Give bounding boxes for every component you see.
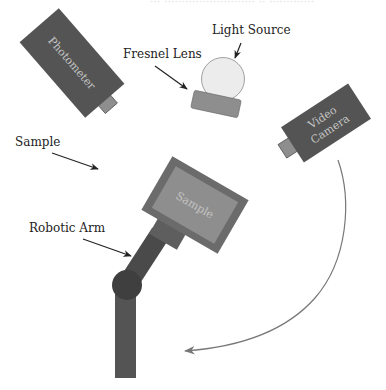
sample-label: Sample [15,135,60,149]
video-camera: Video Camera [271,84,371,169]
sample-arrow [52,153,98,169]
robotic-arm-label: Robotic Arm [29,221,106,235]
light-source-assembly [191,58,245,118]
light-source-arrow [235,43,241,58]
experimental-setup-diagram: ··· ·························· ·· ······… [0,0,386,390]
arm-joint [112,270,142,300]
fresnel-lens-label: Fresnel Lens [123,47,202,61]
robotic-arm [112,215,188,378]
fresnel-lens-arrow [155,66,187,89]
light-source-label: Light Source [212,23,291,37]
robotic-arm-arrow [83,239,131,256]
photometer: Photometer [20,8,131,125]
cropped-header-text: ··· ·························· ·· ······… [150,0,314,9]
